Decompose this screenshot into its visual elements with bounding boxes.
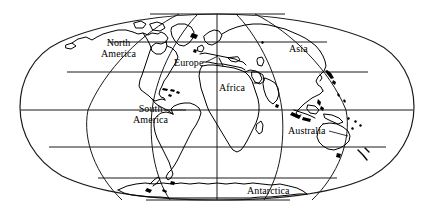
label-south-america-line2: America bbox=[133, 114, 168, 125]
label-north-america-line2: America bbox=[101, 48, 136, 59]
label-australia-text: Australia bbox=[288, 125, 326, 136]
label-antarctica-text: Antarctica bbox=[247, 185, 290, 196]
label-europe: Europe bbox=[174, 57, 203, 68]
world-map-figure: North America Europe Asia Africa South A… bbox=[0, 0, 435, 212]
label-europe-text: Europe bbox=[174, 57, 203, 68]
label-north-america-line1: North bbox=[101, 37, 136, 48]
label-africa-text: Africa bbox=[219, 82, 245, 93]
label-asia: Asia bbox=[289, 43, 308, 54]
label-antarctica: Antarctica bbox=[247, 185, 290, 196]
world-map-svg bbox=[0, 0, 435, 212]
label-north-america: North America bbox=[101, 37, 136, 59]
label-asia-text: Asia bbox=[289, 43, 308, 54]
label-south-america: South America bbox=[133, 103, 168, 125]
label-south-america-line1: South bbox=[133, 103, 168, 114]
label-australia: Australia bbox=[288, 125, 326, 136]
label-africa: Africa bbox=[219, 82, 245, 93]
